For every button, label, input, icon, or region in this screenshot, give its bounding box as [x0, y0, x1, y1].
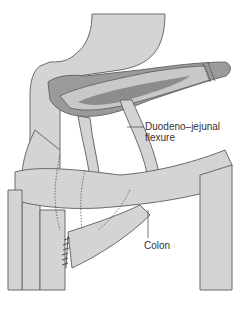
anatomy-illustration [0, 0, 242, 310]
left-colon [8, 190, 22, 290]
dj-flexure-label-line2: flexure [145, 132, 220, 143]
dj-flexure-label-line1: Duodeno–jejunal [145, 121, 220, 132]
dj-flexure-label: Duodeno–jejunal flexure [145, 121, 220, 143]
colon-label: Colon [144, 240, 170, 251]
anatomy-diagram: Duodeno–jejunal flexure Colon [0, 0, 242, 310]
afferent-limb [40, 210, 65, 290]
anastomosis-loop [68, 205, 150, 268]
descending-colon [200, 165, 232, 290]
